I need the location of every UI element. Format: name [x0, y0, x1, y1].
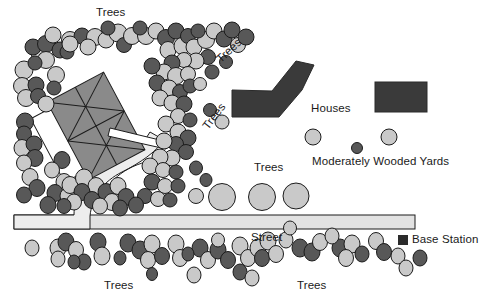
- label-street: Street: [251, 231, 282, 243]
- tree-blob: [221, 252, 236, 269]
- large-tree-1: [209, 184, 236, 211]
- tree-blob: [189, 189, 204, 204]
- label-trees-bottom-right: Trees: [297, 279, 326, 291]
- tree-blob: [355, 246, 369, 262]
- tree-blob: [68, 255, 80, 269]
- tree-blob: [129, 197, 144, 213]
- tree-blob: [179, 145, 194, 160]
- tree-blob: [182, 247, 194, 261]
- tree-blob: [156, 163, 171, 178]
- tree-blob: [163, 193, 177, 207]
- house-rect: [375, 82, 427, 112]
- tree-blob: [114, 251, 126, 265]
- tree-blob: [25, 240, 39, 256]
- large-trees-group: [209, 183, 310, 211]
- tree-blob: [399, 260, 413, 276]
- tree-blob: [339, 250, 354, 267]
- tree-blob: [51, 251, 65, 267]
- tree-blob: [377, 244, 392, 261]
- tree-blob: [205, 65, 219, 79]
- tree-blob: [187, 267, 201, 283]
- yard-circle-right: [381, 129, 397, 145]
- large-tree-2: [249, 184, 276, 211]
- tree-blob: [38, 96, 54, 112]
- tree-blob: [212, 233, 225, 247]
- tree-blob: [147, 268, 158, 281]
- label-trees-center: Trees: [254, 161, 283, 173]
- yard-circle-small: [352, 143, 363, 154]
- tree-blob: [269, 246, 284, 263]
- tree-blob: [255, 250, 270, 267]
- house-bent: [232, 61, 314, 117]
- label-houses: Houses: [311, 102, 351, 114]
- tree-blob: [113, 200, 128, 216]
- tree-blob: [155, 248, 170, 265]
- label-trees-bottom-left: Trees: [104, 279, 133, 291]
- tree-blob: [57, 199, 71, 214]
- label-trees-top: Trees: [96, 6, 125, 18]
- tree-blob: [101, 21, 115, 35]
- tree-blob: [80, 39, 96, 55]
- tree-blob: [191, 24, 205, 38]
- tree-blob: [45, 162, 60, 178]
- tree-blob: [245, 270, 259, 286]
- tree-blob: [62, 36, 78, 52]
- wooded-yard-circles-group: [305, 129, 397, 154]
- tree-blob: [194, 78, 207, 91]
- tree-blob: [45, 27, 61, 43]
- tree-blob: [28, 56, 42, 70]
- base-station-marker-icon: [398, 235, 408, 245]
- tree-blob: [47, 81, 61, 95]
- label-moderately-wooded-yards: Moderately Wooded Yards: [312, 155, 449, 167]
- tree-blob: [284, 221, 297, 235]
- tree-blob: [94, 247, 110, 265]
- label-base-station: Base Station: [412, 233, 478, 245]
- tree-blob: [413, 250, 427, 266]
- tree-blob: [200, 174, 212, 187]
- tree-blob: [171, 179, 185, 193]
- tree-blob: [183, 113, 197, 127]
- tree-blob: [93, 198, 108, 214]
- figure-canvas: Trees Trees Trees Trees Houses Moderatel…: [0, 0, 484, 299]
- tree-blob: [224, 22, 240, 38]
- tree-blob: [141, 252, 156, 269]
- tree-blob: [17, 187, 32, 203]
- yard-circle-left: [305, 129, 321, 145]
- large-tree-3: [283, 183, 309, 209]
- tree-blob: [190, 161, 203, 175]
- tree-blob: [133, 21, 147, 35]
- tree-blob: [169, 165, 183, 179]
- tree-blob: [325, 228, 339, 244]
- tree-blob: [40, 197, 56, 214]
- tree-blob: [156, 133, 172, 149]
- tree-blob: [144, 58, 160, 74]
